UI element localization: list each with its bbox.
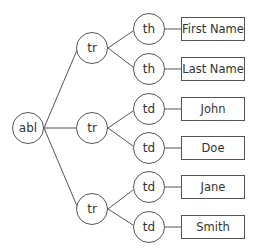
value-box-jane: Jane <box>181 175 245 199</box>
node-label: td <box>143 220 155 234</box>
value-box-smith: Smith <box>181 215 245 239</box>
value-box-doe: Doe <box>181 136 245 160</box>
row-node-3: tr <box>76 193 108 225</box>
cell-node-td-2: td <box>133 132 165 164</box>
node-label: tr <box>87 121 97 135</box>
node-label: abl <box>19 121 37 135</box>
cell-node-th-2: th <box>133 53 165 85</box>
node-label: th <box>143 62 155 76</box>
node-label: tr <box>87 41 97 55</box>
node-label: th <box>143 22 155 36</box>
row-node-1: tr <box>76 32 108 64</box>
node-label: td <box>143 180 155 194</box>
row-node-2: tr <box>76 112 108 144</box>
value-label: First Name <box>182 22 244 36</box>
node-label: tr <box>87 202 97 216</box>
value-box-first-name: First Name <box>181 17 245 41</box>
value-label: Smith <box>196 220 230 234</box>
cell-node-td-4: td <box>133 211 165 243</box>
node-label: td <box>143 102 155 116</box>
value-box-last-name: Last Name <box>181 57 245 81</box>
node-label: td <box>143 141 155 155</box>
cell-node-th-1: th <box>133 13 165 45</box>
cell-node-td-3: td <box>133 171 165 203</box>
value-box-john: John <box>181 97 245 121</box>
value-label: John <box>200 102 225 116</box>
value-label: Jane <box>201 180 226 194</box>
cell-node-td-1: td <box>133 93 165 125</box>
root-node-abl: abl <box>12 112 44 144</box>
value-label: Doe <box>202 141 225 155</box>
value-label: Last Name <box>182 62 244 76</box>
